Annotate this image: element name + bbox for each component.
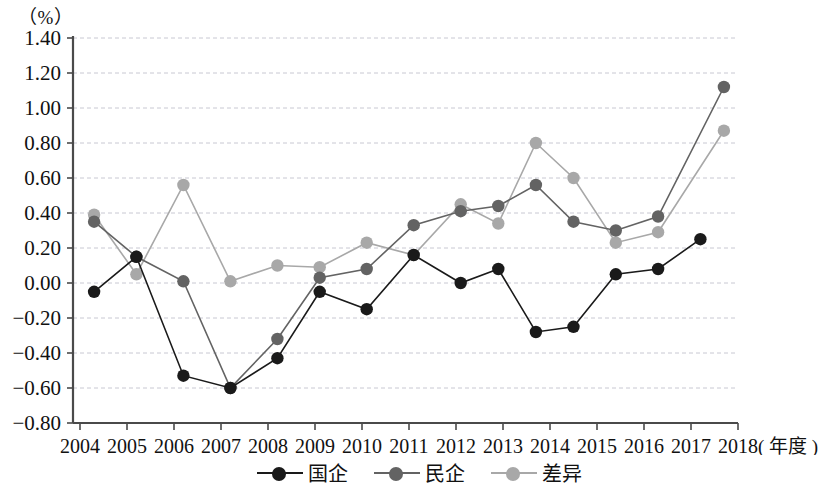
x-tick-label: 2006	[154, 435, 194, 455]
data-point-差异	[610, 237, 622, 249]
x-tick-label: 2011	[389, 435, 428, 455]
y-tick-label: 0.40	[24, 201, 61, 225]
x-tick-label: 2017	[671, 435, 711, 455]
data-point-差异	[652, 226, 664, 238]
data-point-民企	[455, 205, 467, 217]
chart-legend: 国企 民企 差异	[0, 458, 838, 487]
data-point-民企	[408, 219, 420, 231]
data-point-国企	[408, 249, 420, 261]
data-point-国企	[567, 321, 579, 333]
data-point-国企	[455, 277, 467, 289]
legend-label-0: 国企	[308, 458, 348, 487]
data-series	[88, 81, 730, 394]
legend-dot-0	[272, 467, 286, 481]
y-tick-label: 0.80	[24, 131, 61, 155]
data-point-国企	[224, 382, 236, 394]
legend-marker-icon-2	[491, 465, 537, 481]
y-axis-labels: 1.401.201.000.800.600.400.200.00−0.20−0.…	[12, 26, 61, 435]
data-point-民企	[271, 333, 283, 345]
legend-dot-2	[506, 467, 520, 481]
data-point-民企	[652, 210, 664, 222]
x-axis-unit-label: ( 年度 )	[758, 436, 818, 455]
data-point-国企	[652, 263, 664, 275]
data-point-国企	[177, 370, 189, 382]
legend-item-2: 差异	[491, 458, 582, 487]
data-point-国企	[492, 263, 504, 275]
x-axis-labels: 2004200520062007200820092010201120122013…	[60, 435, 758, 455]
data-point-民企	[492, 200, 504, 212]
data-point-民企	[610, 224, 622, 236]
data-point-差异	[130, 268, 142, 280]
legend-item-0: 国企	[257, 458, 348, 487]
x-tick-label: 2018	[718, 435, 758, 455]
gridlines	[73, 38, 738, 423]
data-point-民企	[88, 216, 100, 228]
data-point-民企	[567, 216, 579, 228]
data-point-国企	[88, 286, 100, 298]
x-tick-label: 2013	[483, 435, 523, 455]
legend-marker-icon-0	[257, 465, 303, 481]
y-tick-label: 0.00	[24, 271, 61, 295]
data-point-民企	[361, 263, 373, 275]
line-chart: （%） 1.401.201.000.800.600.400.200.00−0.2…	[0, 0, 838, 495]
legend-item-1: 民企	[374, 458, 465, 487]
legend-marker-icon-1	[374, 465, 420, 481]
data-point-民企	[718, 81, 730, 93]
x-tick-label: 2008	[248, 435, 288, 455]
data-point-差异	[718, 125, 730, 137]
data-point-差异	[177, 179, 189, 191]
x-tick-label: 2004	[60, 435, 100, 455]
series-line-民企	[94, 87, 724, 388]
y-tick-label: −0.60	[12, 376, 61, 400]
data-point-国企	[271, 352, 283, 364]
legend-label-2: 差异	[542, 458, 582, 487]
x-tick-label: 2005	[107, 435, 147, 455]
x-tick-label: 2009	[295, 435, 335, 455]
y-tick-label: −0.80	[12, 411, 61, 435]
data-point-差异	[567, 172, 579, 184]
y-tick-label: 0.20	[24, 236, 61, 260]
x-tick-label: 2014	[530, 435, 570, 455]
data-point-差异	[224, 275, 236, 287]
y-tick-label: −0.40	[12, 341, 61, 365]
chart-plot-area: 1.401.201.000.800.600.400.200.00−0.20−0.…	[0, 0, 838, 455]
legend-dot-1	[389, 467, 403, 481]
data-point-差异	[530, 137, 542, 149]
x-tick-label: 2016	[624, 435, 664, 455]
x-tick-label: 2010	[342, 435, 382, 455]
y-tick-label: −0.20	[12, 306, 61, 330]
data-point-民企	[530, 179, 542, 191]
y-tick-label: 1.20	[24, 61, 61, 85]
data-point-国企	[610, 268, 622, 280]
x-tick-label: 2012	[436, 435, 476, 455]
y-tick-label: 1.00	[24, 96, 61, 120]
data-point-国企	[530, 326, 542, 338]
data-point-民企	[177, 275, 189, 287]
y-tick-label: 1.40	[24, 26, 61, 50]
legend-label-1: 民企	[425, 458, 465, 487]
data-point-差异	[361, 237, 373, 249]
series-line-国企	[94, 239, 700, 388]
x-tick-label: 2015	[577, 435, 617, 455]
data-point-差异	[492, 217, 504, 229]
y-tick-label: 0.60	[24, 166, 61, 190]
data-point-差异	[271, 259, 283, 271]
data-point-国企	[314, 286, 326, 298]
data-point-民企	[314, 272, 326, 284]
x-tick-label: 2007	[201, 435, 241, 455]
data-point-国企	[361, 303, 373, 315]
data-point-国企	[130, 251, 142, 263]
data-point-国企	[694, 233, 706, 245]
